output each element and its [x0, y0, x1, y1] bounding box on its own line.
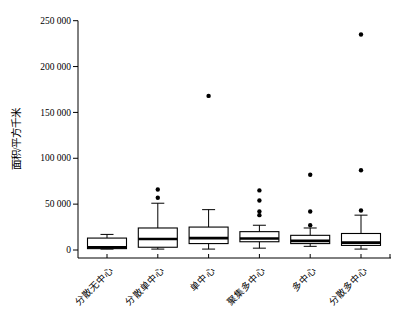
outlier-point [308, 223, 312, 227]
outlier-point [156, 196, 160, 200]
y-tick-label: 200 000 [40, 62, 71, 72]
x-category-label: 分散无中心 [72, 265, 115, 308]
y-tick-label: 50 000 [45, 199, 71, 209]
outlier-point [308, 209, 312, 213]
box [240, 232, 279, 242]
x-category-label: 多中心 [290, 265, 319, 294]
box [291, 235, 330, 243]
outlier-point [359, 168, 363, 172]
outlier-point [257, 198, 261, 202]
outlier-point [359, 208, 363, 212]
outlier-point [156, 187, 160, 191]
outlier-point [257, 209, 261, 213]
y-tick-label: 150 000 [40, 108, 71, 118]
outlier-point [359, 32, 363, 36]
y-tick-label: 0 [66, 245, 71, 255]
box [138, 228, 177, 247]
x-category-label: 单中心 [188, 265, 217, 294]
outlier-point [308, 173, 312, 177]
y-tick-label: 250 000 [40, 16, 71, 26]
box [189, 227, 228, 244]
outlier-point [257, 188, 261, 192]
boxplot-figure: 050 000100 000150 000200 000250 000面积/平方… [0, 0, 405, 330]
y-tick-label: 100 000 [40, 153, 71, 163]
x-category-label: 分散单中心 [123, 265, 166, 308]
y-axis-title: 面积/平方千米 [10, 107, 22, 171]
outlier-point [206, 94, 210, 98]
boxplot-svg: 050 000100 000150 000200 000250 000面积/平方… [0, 0, 405, 330]
x-category-label: 分散多中心 [326, 265, 369, 308]
x-category-label: 聚集多中心 [225, 265, 268, 308]
